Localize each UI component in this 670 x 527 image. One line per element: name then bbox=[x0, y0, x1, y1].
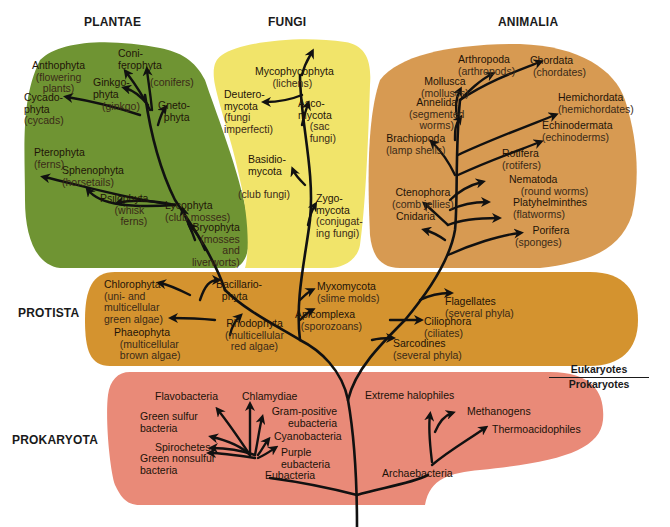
taxon-methanogens: Methanogens bbox=[467, 406, 531, 418]
taxon-psilophyta: Psilophyta (whisk ferns) bbox=[100, 193, 148, 228]
taxon-extreme-halophiles: Extreme halophiles bbox=[365, 390, 454, 402]
taxon-archaebacteria: Archaebacteria bbox=[382, 468, 453, 480]
taxon-purple-eubacteria: Purple eubacteria bbox=[281, 447, 341, 470]
taxon-ciliophora: Ciliophora(ciliates) bbox=[424, 316, 471, 339]
taxon-myxomycota: Myxomycota(slime molds) bbox=[317, 281, 379, 304]
taxon-echinodermata: Echinodermata(echinoderms) bbox=[542, 120, 613, 143]
taxon-sphenophyta: Sphenophyta(horsetails) bbox=[62, 165, 124, 188]
taxon-porifera: Porifera(sponges) bbox=[515, 225, 569, 248]
taxon-cnidaria: Cnidaria bbox=[396, 211, 435, 223]
taxon-deuteromycota: Deutero-mycota(fungiimperfecti) bbox=[224, 89, 273, 135]
taxon-eubacteria: Eubacteria bbox=[265, 470, 315, 482]
taxon-ginkgophyta-common: (ginkgo) bbox=[102, 101, 140, 113]
taxon-sarcodines: Sarcodines(several phyla) bbox=[393, 338, 462, 361]
kingdom-label-animalia: ANIMALIA bbox=[498, 15, 558, 29]
taxon-coniferophyta: Coni-ferophyta bbox=[118, 48, 162, 71]
taxon-platyhelminthes: Platyhelminthes(flatworms) bbox=[513, 197, 587, 220]
taxon-rhodophyta: Rhodophyta(multicellularred algae) bbox=[225, 318, 284, 353]
taxon-nematoda: Nematoda (round worms) bbox=[509, 174, 588, 197]
taxon-coniferophyta-common: (conifers) bbox=[150, 77, 194, 89]
taxon-apicomplexa: Apicomplexa (sporozoans) bbox=[295, 309, 362, 332]
eukaryote-prokaryote-divider: Eukaryotes Prokaryotes bbox=[549, 363, 649, 391]
taxon-green-nonsulfur-bacteria: Green nonsulfur bacteria bbox=[140, 453, 230, 476]
taxon-ginkgophyta: Ginkgo-phyta bbox=[93, 77, 130, 100]
taxon-basidiomycota: Basidio-mycota bbox=[248, 154, 286, 177]
kingdom-label-protista: PROTISTA bbox=[18, 306, 79, 320]
taxon-annelida: Annelida(segmentedworms) bbox=[409, 97, 464, 132]
taxon-arthropoda: Arthropoda(arthropods) bbox=[458, 54, 515, 77]
taxon-thermoacidophiles: Thermoacidophiles bbox=[492, 424, 581, 436]
taxon-anthophyta: Anthophyta(floweringplants) bbox=[32, 60, 85, 95]
taxon-bacillariophyta: Bacillario- phyta bbox=[216, 279, 262, 302]
taxon-mycophycophyta: Mycophycophyta (lichens) bbox=[255, 66, 334, 89]
taxon-hemichordata: Hemichordata(hemichordates) bbox=[558, 92, 634, 115]
taxon-ascomycota: Asco-mycota (sac fungi) bbox=[298, 98, 336, 144]
taxon-cycadophyta: Cycado-phyta(cycads) bbox=[24, 92, 64, 127]
taxon-flavobacteria: Flavobacteria bbox=[155, 391, 218, 403]
taxon-gram-positive-eubacteria: Gram-positive eubacteria bbox=[257, 406, 337, 429]
kingdom-label-prokaryota: PROKARYOTA bbox=[12, 433, 98, 447]
kingdom-label-plantae: PLANTAE bbox=[84, 15, 141, 29]
taxon-chlamydiae: Chlamydiae bbox=[242, 391, 297, 403]
taxon-ctenophora: Ctenophora(comb jellies) bbox=[392, 187, 454, 210]
taxon-phaeophyta: Phaeophyta (multicellular brown algae) bbox=[114, 327, 181, 362]
taxon-bryophyta: Bryophyta(mossesandliverworts) bbox=[192, 222, 240, 268]
taxon-brachiopoda: Brachiopoda(lamp shells) bbox=[386, 133, 446, 156]
taxon-lycophyta: Lycophyta(club mosses) bbox=[165, 200, 230, 223]
taxon-zygomycota: Zygo-mycota(conjugat-ing fungi) bbox=[316, 193, 363, 239]
prokaryotes-label: Prokaryotes bbox=[569, 378, 630, 390]
taxon-chordata: Chordata (chordates) bbox=[530, 55, 586, 78]
taxon-cyanobacteria: Cyanobacteria bbox=[274, 431, 342, 443]
taxon-basidiomycota-common: (club fungi) bbox=[238, 189, 290, 201]
taxon-green-sulfur-bacteria: Green sulfur bacteria bbox=[140, 411, 210, 434]
taxon-rotifera: Rotifera(rotifers) bbox=[502, 148, 541, 171]
taxon-gnetophyta: Gneto- phyta bbox=[158, 100, 190, 123]
kingdom-label-fungi: FUNGI bbox=[268, 15, 306, 29]
taxon-chlorophyta: Chlorophyta(uni- andmulticellulargreen a… bbox=[104, 279, 163, 325]
eukaryotes-label: Eukaryotes bbox=[549, 363, 649, 378]
